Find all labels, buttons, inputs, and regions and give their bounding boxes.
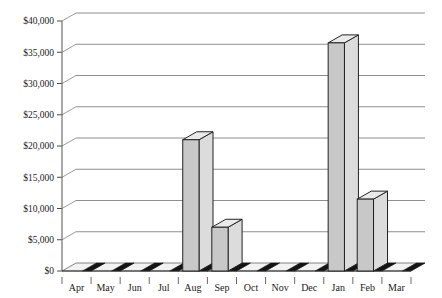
y-axis-label: $25,000 [23, 110, 54, 120]
bar-side-face [228, 219, 242, 271]
x-axis-label: Jun [128, 282, 142, 293]
x-axis-label: Feb [360, 282, 375, 293]
y-axis-label: $15,000 [23, 173, 54, 183]
x-axis-label: Apr [69, 282, 85, 293]
bar-front-face [328, 43, 344, 271]
gridline-riser [62, 107, 76, 115]
gridline-riser [62, 232, 76, 240]
x-axis-label: Nov [272, 282, 289, 293]
bar-feb [357, 191, 387, 271]
column-chart: $0$5,000$10,000$15,000$20,000$25,000$30,… [0, 0, 442, 298]
x-axis-label: Aug [184, 282, 201, 293]
bar-front-face [183, 140, 199, 271]
bar-side-face [344, 35, 358, 271]
y-axis-label: $20,000 [23, 141, 54, 151]
y-axis-label: $10,000 [23, 204, 54, 214]
y-axis-label: $30,000 [23, 79, 54, 89]
y-axis-label: $0 [45, 266, 55, 276]
gridline-riser [62, 169, 76, 177]
gridline-riser [62, 138, 76, 146]
x-axis-label: Sep [214, 282, 229, 293]
gridline-riser [62, 76, 76, 84]
x-axis-label: Jan [332, 282, 345, 293]
bar-side-face [374, 191, 388, 271]
gridline-riser [62, 44, 76, 52]
x-axis-label: Jul [158, 282, 170, 293]
bar-jan [328, 35, 358, 271]
gridline-riser [62, 13, 76, 21]
y-axis-label: $5,000 [28, 235, 54, 245]
bar-side-face [199, 132, 213, 271]
bar-sep [212, 219, 242, 271]
x-axis-label: Mar [388, 282, 405, 293]
x-axis-label: Oct [244, 282, 259, 293]
gridline-riser [62, 201, 76, 209]
chart-container: $0$5,000$10,000$15,000$20,000$25,000$30,… [0, 0, 442, 298]
bar-aug [183, 132, 213, 271]
x-axis-label: May [96, 282, 114, 293]
bar-front-face [357, 199, 373, 271]
x-axis-label: Dec [301, 282, 318, 293]
y-axis-label: $40,000 [23, 16, 54, 26]
y-axis-label: $35,000 [23, 48, 54, 58]
bar-front-face [212, 227, 228, 271]
